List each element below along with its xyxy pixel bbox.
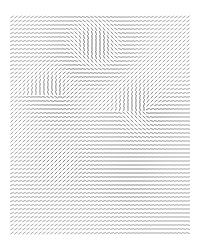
vector-field-artwork [0,0,199,249]
